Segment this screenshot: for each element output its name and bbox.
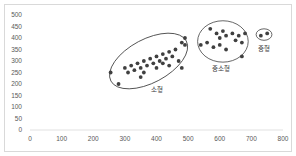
x-tick-label: 300 <box>119 135 130 142</box>
data-point <box>136 61 140 65</box>
data-points <box>109 27 269 86</box>
data-point <box>142 59 146 63</box>
data-point <box>224 48 228 52</box>
data-point <box>243 32 247 36</box>
data-point <box>237 34 241 38</box>
data-point <box>218 43 222 47</box>
y-tick-label: 150 <box>11 92 22 99</box>
data-point <box>265 32 269 36</box>
data-point <box>177 59 181 63</box>
y-tick-label: 100 <box>11 103 22 110</box>
data-point <box>161 52 165 56</box>
data-point <box>183 43 187 47</box>
data-point <box>155 66 159 70</box>
y-tick-label: 350 <box>11 46 22 53</box>
data-point <box>180 41 184 45</box>
data-point <box>208 27 212 31</box>
data-point <box>240 41 244 45</box>
data-point <box>161 61 165 65</box>
data-point <box>240 55 244 59</box>
data-point <box>145 64 149 68</box>
y-tick-label: 400 <box>11 34 22 41</box>
x-tick-label: 700 <box>246 135 257 142</box>
y-tick-label: 200 <box>11 80 22 87</box>
axes: 0501001502002503003504004505000100200300… <box>11 11 289 142</box>
x-tick-label: 0 <box>28 135 32 142</box>
data-point <box>139 66 143 70</box>
x-tick-label: 200 <box>88 135 99 142</box>
y-tick-label: 300 <box>11 57 22 64</box>
group-label: 중형 <box>258 45 270 53</box>
x-tick-label: 800 <box>278 135 289 142</box>
x-tick-label: 500 <box>183 135 194 142</box>
data-point <box>234 38 238 42</box>
data-point <box>259 34 263 38</box>
data-point <box>164 57 168 61</box>
data-point <box>218 36 222 40</box>
y-tick-label: 450 <box>11 23 22 30</box>
x-tick-label: 100 <box>56 135 67 142</box>
data-point <box>205 41 209 45</box>
data-point <box>142 71 146 75</box>
data-point <box>212 45 216 49</box>
group-label: 소형 <box>151 86 163 94</box>
data-point <box>231 32 235 36</box>
data-point <box>123 66 127 70</box>
data-point <box>132 68 136 72</box>
data-point <box>139 75 143 79</box>
data-point <box>129 64 133 68</box>
data-point <box>167 50 171 54</box>
data-point <box>117 82 121 86</box>
data-point <box>109 71 113 75</box>
data-point <box>183 36 187 40</box>
data-point <box>170 55 174 59</box>
y-tick-label: 250 <box>11 69 22 76</box>
y-tick-label: 50 <box>15 115 23 122</box>
data-point <box>221 29 225 33</box>
data-point <box>148 57 152 61</box>
y-tick-label: 500 <box>11 11 22 18</box>
data-point <box>167 64 171 68</box>
group-ellipse <box>101 22 197 101</box>
data-point <box>155 55 159 59</box>
data-point <box>199 43 203 47</box>
x-tick-label: 400 <box>151 135 162 142</box>
data-point <box>224 34 228 38</box>
data-point <box>180 66 184 70</box>
group-label: 중소형 <box>212 65 230 73</box>
data-point <box>174 48 178 52</box>
data-point <box>158 59 162 63</box>
data-point <box>126 71 130 75</box>
scatter-chart: 0501001502002503003504004505000100200300… <box>0 0 296 156</box>
y-tick-label: 0 <box>18 126 22 133</box>
data-point <box>215 32 219 36</box>
group-ellipse <box>256 29 272 41</box>
data-point <box>151 61 155 65</box>
x-tick-label: 600 <box>214 135 225 142</box>
